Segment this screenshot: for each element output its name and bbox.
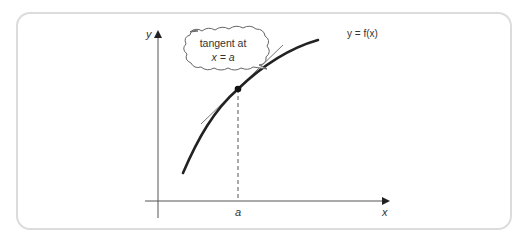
callout-line2: x = a — [210, 51, 234, 63]
point-a-label: a — [235, 206, 241, 218]
tangent-diagram: tangent at x = a y x a y = f(x) — [0, 0, 524, 241]
y-axis-label: y — [145, 28, 153, 40]
callout-line1: tangent at — [200, 37, 247, 49]
curve-label: y = f(x) — [347, 28, 378, 39]
tangent-point — [235, 86, 242, 93]
x-axis-label: x — [381, 206, 388, 218]
